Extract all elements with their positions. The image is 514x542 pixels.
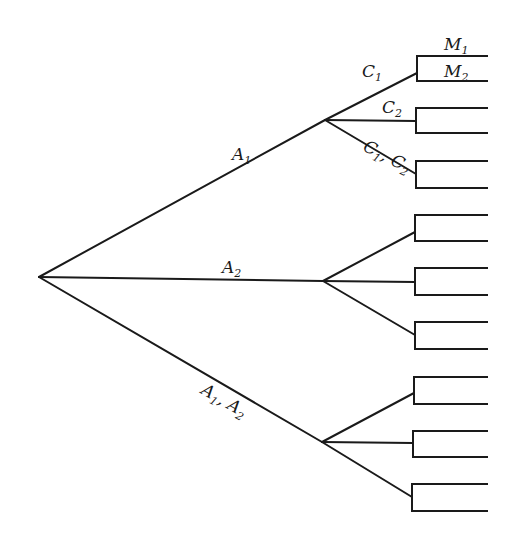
leaf-bracket [416,161,488,188]
edge-label-a1: A1 [230,144,251,167]
tree-labels: A1C1C2C1, C2A2A1, A2M1M2 [195,34,469,424]
tree-edges [39,73,417,497]
edge-a1-c2 [325,120,416,121]
edge-a2-a2-2 [323,281,415,282]
edge-label-c1: C1 [362,61,382,84]
leaf-bracket [416,108,488,133]
leaf-label-m1: M1 [443,34,468,57]
edge-label-a2: A2 [220,257,241,280]
edge-a1a2-a12-2 [322,442,413,443]
leaf-bracket [415,322,488,349]
edge-root-a1a2 [39,277,322,442]
decision-tree-diagram: A1C1C2C1, C2A2A1, A2M1M2 [0,0,514,542]
leaf-bracket [412,484,488,511]
edge-root-a1 [39,120,325,277]
edge-a2-a2-3 [323,281,415,335]
edge-label-c1c2: C1, C2 [359,136,415,180]
edge-a2-a2-1 [323,232,415,281]
leaf-label-m2: M2 [443,61,468,84]
leaf-bracket [414,377,488,404]
leaf-bracket [415,215,488,241]
edge-a1a2-a12-1 [322,393,414,442]
leaf-bracket [415,268,488,295]
edge-label-c2: C2 [382,97,402,120]
edge-a1a2-a12-3 [322,442,412,497]
leaf-bracket [413,431,488,457]
edge-root-a2 [39,277,323,281]
tree-leaf-brackets [412,56,488,511]
